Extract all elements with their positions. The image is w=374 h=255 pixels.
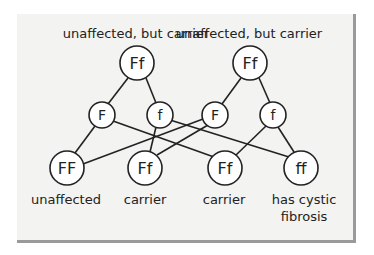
gamete2-f-node: f [260, 102, 286, 128]
svg-text:Ff: Ff [138, 159, 153, 178]
offspring-Ff1-node: Ff [128, 151, 162, 185]
offspring-Ff2-label: carrier [203, 192, 246, 207]
edge-parent2-F [222, 78, 241, 104]
svg-text:Ff: Ff [243, 54, 258, 73]
gamete1-f-node: f [147, 102, 173, 128]
parent2-label: unaffected, but carrier [176, 26, 323, 41]
offspring-ff-label-line2: fibrosis [281, 209, 328, 224]
inheritance-diagram: unaffected, but carrier unaffected, but … [0, 0, 374, 255]
parent1-node: Ff [120, 46, 154, 80]
offspring-Ff2-node: Ff [208, 151, 242, 185]
offspring-FF-node: FF [50, 151, 84, 185]
edge-f2-Ff2 [236, 126, 266, 155]
svg-text:F: F [98, 107, 106, 123]
svg-text:Ff: Ff [218, 159, 233, 178]
svg-text:F: F [211, 107, 219, 123]
parent2-node: Ff [233, 46, 267, 80]
gamete2-F-node: F [202, 102, 228, 128]
edge-f2-ff [278, 127, 294, 152]
offspring-ff-node: ff [284, 151, 318, 185]
edge-parent2-f [259, 78, 270, 103]
svg-text:FF: FF [58, 159, 76, 178]
offspring-ff-label-line1: has cystic [272, 192, 337, 207]
edge-parent1-F [108, 78, 128, 104]
svg-text:Ff: Ff [130, 54, 145, 73]
edge-parent1-f [146, 78, 156, 103]
offspring-Ff1-label: carrier [124, 192, 167, 207]
edge-F1-FF [75, 126, 95, 153]
edge-f1-Ff1 [150, 127, 156, 152]
offspring-FF-label: unaffected [31, 192, 101, 207]
svg-text:ff: ff [295, 159, 307, 178]
gamete1-F-node: F [89, 102, 115, 128]
